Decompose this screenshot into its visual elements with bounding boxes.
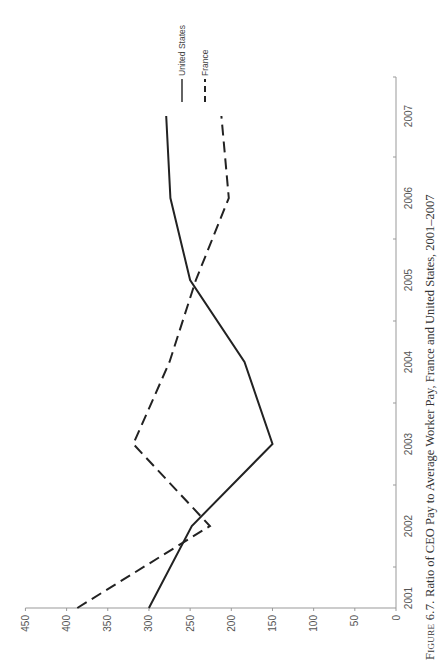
value-tick-label: 200 — [226, 615, 237, 632]
value-tick-label: 450 — [20, 615, 31, 632]
category-tick-label: 2001 — [403, 586, 414, 609]
value-tick-label: 0 — [391, 615, 402, 621]
figure-caption: Figure 6.7. Ratio of CEO Pay to Average … — [423, 194, 437, 660]
caption-text: Figure 6.7. Ratio of CEO Pay to Average … — [423, 194, 437, 660]
value-tick-label: 50 — [349, 615, 360, 627]
caption-body: Ratio of CEO Pay to Average Worker Pay, … — [423, 194, 437, 597]
value-tick-label: 150 — [267, 615, 278, 632]
legend-label: France — [200, 49, 210, 76]
category-tick-label: 2002 — [403, 514, 414, 537]
value-tick-label: 400 — [61, 615, 72, 632]
chart-series — [77, 116, 272, 608]
series-france — [77, 116, 229, 608]
category-tick-label: 2005 — [403, 268, 414, 291]
category-tick-label: 2003 — [403, 432, 414, 455]
chart-axes: 0501001502002503003504004502001200220032… — [20, 77, 414, 632]
line-chart: 0501001502002503003504004502001200220032… — [0, 0, 440, 665]
category-tick-label: 2007 — [403, 104, 414, 127]
category-tick-label: 2004 — [403, 350, 414, 373]
chart-legend: United StatesFrance — [177, 25, 210, 102]
value-tick-label: 100 — [308, 615, 319, 632]
value-tick-label: 350 — [102, 615, 113, 632]
series-united-states — [149, 116, 273, 608]
category-tick-label: 2006 — [403, 186, 414, 209]
value-tick-label: 300 — [143, 615, 154, 632]
value-tick-label: 250 — [185, 615, 196, 632]
caption-figure-label: Figure 6.7. — [423, 597, 437, 660]
legend-label: United States — [177, 25, 187, 76]
